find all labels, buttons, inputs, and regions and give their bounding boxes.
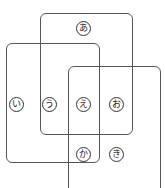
set-rect-c: [68, 66, 161, 188]
circled-label: え: [76, 97, 91, 112]
circled-label: か: [76, 147, 91, 162]
circled-label: き: [109, 147, 124, 162]
circled-label: あ: [76, 21, 91, 36]
circled-label: お: [109, 97, 124, 112]
circled-label: い: [9, 97, 24, 112]
circled-label: う: [42, 97, 57, 112]
